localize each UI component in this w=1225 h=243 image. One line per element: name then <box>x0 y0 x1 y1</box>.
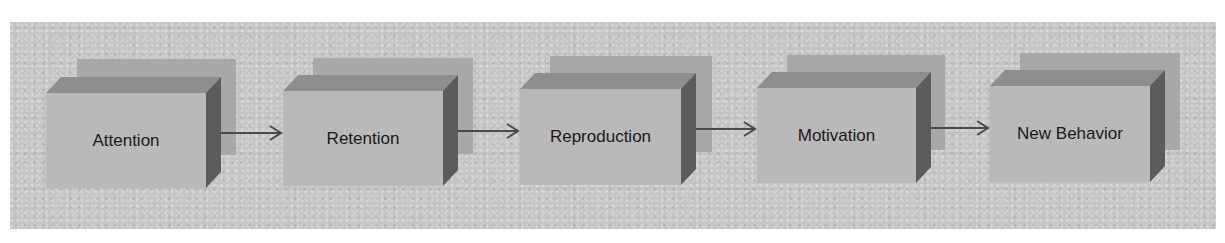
arrow-icon <box>0 0 1225 243</box>
process-diagram: Attention Retention Reproduction Motivat… <box>0 0 1225 243</box>
